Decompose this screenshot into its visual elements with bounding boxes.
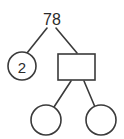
connector-root-to-right-factor <box>56 28 77 53</box>
node-child-right-circle[interactable] <box>86 105 116 135</box>
node-right-factor-box[interactable] <box>58 54 95 80</box>
connector-rect-to-child-right <box>84 81 95 107</box>
factor-tree-diagram: 78 2 <box>0 0 124 139</box>
connector-rect-to-child-left <box>54 81 71 107</box>
node-child-left-circle[interactable] <box>31 105 61 135</box>
node-left-factor-label: 2 <box>18 59 26 76</box>
root-value-label: 78 <box>43 11 61 28</box>
diagram-canvas: 78 2 <box>0 0 124 139</box>
connector-root-to-left-factor <box>27 28 47 53</box>
